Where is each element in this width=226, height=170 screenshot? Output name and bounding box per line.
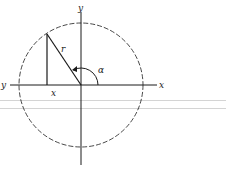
x-foot-label: x [51,88,56,98]
y-axis-left-label: y [0,80,7,90]
radius-line [47,34,81,85]
y-axis-top-label: y [77,3,84,13]
x-axis-right-label: x [159,80,164,90]
angle-label: α [98,65,104,75]
polar-coordinate-diagram: y x y x r α [0,0,226,170]
arrowhead-icon [72,66,77,72]
page-rules [0,101,226,109]
radius-label: r [61,44,66,54]
